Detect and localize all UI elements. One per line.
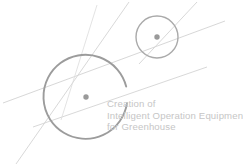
logo-canvas: Creation of Intelligent Operation Equipm… <box>0 0 243 166</box>
tagline-block: Creation of Intelligent Operation Equipm… <box>107 98 239 133</box>
tangent-line-upper <box>3 21 225 103</box>
tagline-line-3: for Greenhouse <box>107 121 239 133</box>
crossing-line-short <box>61 5 97 120</box>
logo-artwork <box>0 0 243 166</box>
construction-lines <box>3 2 225 164</box>
small-circle-center-dot <box>154 34 159 39</box>
tagline-line-2: Intelligent Operation Equipment <box>107 110 239 122</box>
tagline-line-1: Creation of <box>107 98 239 110</box>
large-circle-center-dot <box>83 94 88 99</box>
